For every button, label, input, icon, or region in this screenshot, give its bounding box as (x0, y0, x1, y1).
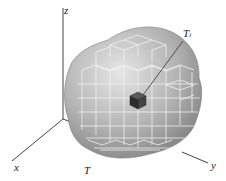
region-label: T (84, 165, 90, 176)
x-axis-label: x (14, 162, 19, 173)
box-label-subscript: i (189, 31, 191, 39)
region-diagram (0, 0, 226, 181)
y-axis-label: y (211, 160, 216, 171)
z-axis-label: z (64, 5, 68, 16)
x-axis (12, 119, 63, 161)
box-label: Ti (183, 28, 191, 39)
y-axis (182, 152, 208, 163)
